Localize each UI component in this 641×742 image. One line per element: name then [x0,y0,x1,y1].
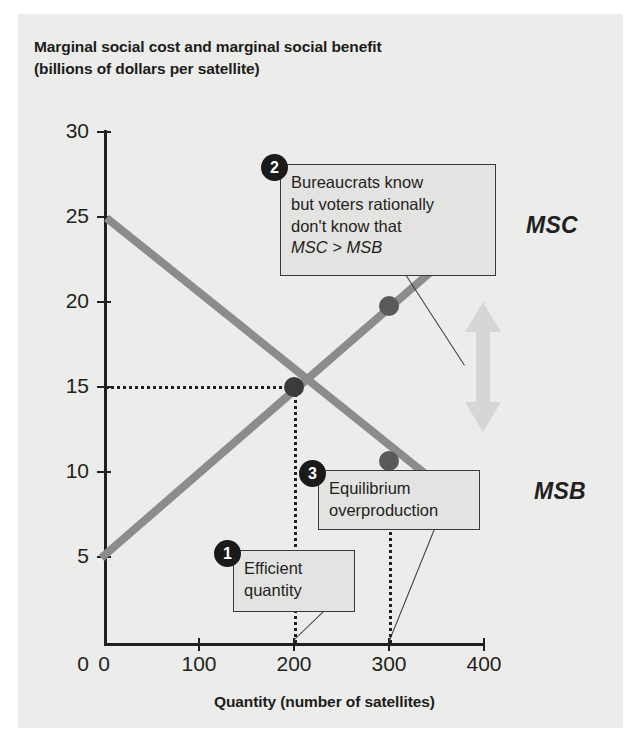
annotation-2-box: Bureaucrats know but voters rationally d… [280,164,496,276]
figure-panel: Marginal social cost and marginal social… [18,14,623,728]
annotation-3-badge: 3 [299,460,326,487]
x-tick-label-300: 300 [359,652,419,676]
annotation-2-leader-line [405,275,464,365]
annotation-3-box: Equilibrium overproduction [318,470,480,530]
msc-at-300-marker [379,296,399,316]
plot-area: 30 25 20 15 10 5 0 0 100 200 300 400 Qua… [18,14,623,728]
annotation-3-line-2: overproduction [329,500,469,522]
annotation-1-line-2: quantity [244,580,344,602]
msc-curve-label: MSC [526,212,578,239]
equilibrium-point-marker [284,377,304,397]
y-tick-label-25: 25 [66,204,89,228]
msb-curve-label: MSB [534,478,586,505]
annotation-2-line-3: don't know that [291,216,485,238]
y-tick-10 [97,471,111,473]
x-tick-100 [198,638,200,651]
annotation-2-badge: 2 [261,154,288,181]
annotation-3-line-1: Equilibrium [329,478,469,500]
annotation-3-leader-line [388,529,435,642]
x-axis-caption: Quantity (number of satellites) [214,693,435,711]
y-tick-label-15: 15 [66,374,89,398]
x-tick-label-100: 100 [169,652,229,676]
x-tick-400 [483,638,485,651]
msb-at-300-marker [379,451,399,471]
y-tick-label-10: 10 [66,459,89,483]
y-tick-label-20: 20 [66,289,89,313]
x-tick-label-200: 200 [264,652,324,676]
annotation-1-box: Efficient quantity [233,550,355,612]
annotation-2-line-1: Bureaucrats know [291,172,485,194]
x-tick-label-400: 400 [454,652,514,676]
guide-line-price-15 [106,386,294,389]
annotation-2-line-4: MSC > MSB [291,238,382,256]
overproduction-gap-arrow [461,302,505,432]
y-tick-20 [97,301,111,303]
y-tick-label-5: 5 [77,544,89,568]
y-tick-label-30: 30 [66,119,89,143]
annotation-2-line-2: but voters rationally [291,194,485,216]
annotation-1-badge: 1 [214,540,241,567]
x-tick-label-0: 0 [74,652,134,676]
annotation-1-line-1: Efficient [244,558,344,580]
y-tick-30 [97,131,111,133]
